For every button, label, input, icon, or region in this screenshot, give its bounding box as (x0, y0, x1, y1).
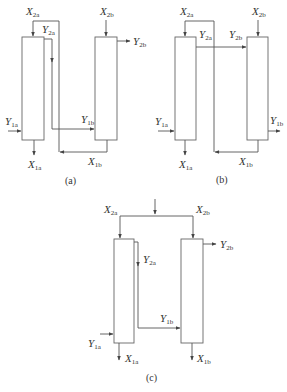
diagram-b: X2a Y2a Y2b X2b Y1a Y1b X1a X1b (b) (155, 5, 284, 186)
stream-b-x1b (215, 140, 258, 152)
label-c-x1b: X1b (196, 352, 211, 366)
column-b-right (247, 37, 268, 140)
label-a-y1b: Y1b (81, 113, 95, 127)
label-c-y1b: Y1b (160, 312, 174, 326)
diagram-c: X2a X2b Y2a Y2b Y1b Y1a X1a X1b (c) (88, 199, 234, 384)
caption-c: (c) (146, 372, 157, 384)
label-a-x2b: X2b (99, 5, 114, 19)
label-c-x1a: X1a (124, 352, 139, 366)
label-b-x1a: X1a (178, 158, 193, 172)
label-a-x1a: X1a (27, 158, 42, 172)
label-b-x2b: X2b (251, 5, 266, 19)
label-b-y1a: Y1a (155, 115, 169, 129)
label-a-y2b: Y2b (133, 35, 147, 49)
label-c-y1a: Y1a (88, 337, 102, 351)
label-b-y2a: Y2a (199, 28, 213, 42)
label-b-y1b: Y1b (270, 114, 284, 128)
label-a-y2a: Y2a (42, 23, 56, 37)
label-b-x1b: X1b (238, 155, 253, 169)
diagram-a: X2a Y2a X2b Y2b Y1a Y1b X1a X1b (a) (5, 5, 147, 187)
label-c-x2b: X2b (195, 203, 210, 217)
label-a-x1b: X1b (87, 155, 102, 169)
stream-a-y2a-down (44, 39, 52, 62)
flow-diagrams: X2a Y2a X2b Y2b Y1a Y1b X1a X1b (a) X2a … (0, 0, 287, 392)
label-b-x2a: X2a (179, 5, 194, 19)
stream-c-y1b (138, 264, 180, 328)
column-c-right (181, 239, 203, 343)
label-c-y2b: Y2b (220, 238, 234, 252)
label-c-y2a: Y2a (143, 253, 157, 267)
stream-c-y2a (134, 242, 138, 266)
column-c-left (114, 239, 134, 343)
column-a-right (95, 37, 117, 140)
label-a-y1a: Y1a (5, 115, 19, 129)
label-a-x2a: X2a (25, 5, 40, 19)
column-b-left (175, 37, 196, 140)
column-a-left (22, 37, 44, 140)
label-b-y2b: Y2b (229, 28, 243, 42)
label-c-x2a: X2a (103, 203, 118, 217)
caption-a: (a) (65, 175, 76, 187)
stream-a-x1b (60, 140, 107, 152)
caption-b: (b) (216, 174, 228, 186)
